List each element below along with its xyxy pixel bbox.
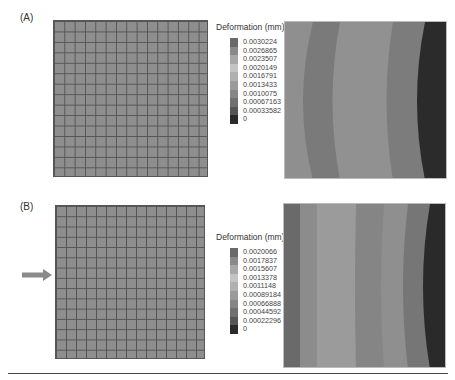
panel-label-b: (B)	[20, 201, 33, 212]
legend-swatch	[230, 64, 238, 73]
legend-swatch	[230, 38, 238, 47]
legend-b: Deformation (mm) 0.00200660.00178370.001…	[216, 232, 284, 334]
legend-value: 0.00022296	[243, 317, 281, 326]
contour-plot-b	[284, 204, 446, 368]
arrow-right-icon	[22, 267, 52, 285]
legend-swatch	[230, 72, 238, 81]
deformation-contour-b	[283, 203, 446, 368]
legend-row: 0	[230, 325, 284, 334]
legend-swatch	[230, 300, 238, 309]
mesh-grid-b	[55, 205, 205, 359]
legend-a: Deformation (mm) 0.00302240.00268650.002…	[216, 22, 284, 124]
contour-plot-a	[285, 22, 447, 179]
deformation-contour-a	[284, 21, 447, 179]
legend-swatch	[230, 107, 238, 116]
legend-swatch	[230, 325, 238, 334]
legend-swatch	[230, 265, 238, 274]
legend-swatch	[230, 90, 238, 99]
legend-scale-b: 0.00200660.00178370.00156070.00133780.00…	[230, 248, 284, 334]
legend-swatch	[230, 81, 238, 90]
legend-value: 0	[243, 325, 247, 334]
legend-swatch	[230, 274, 238, 283]
legend-scale-a: 0.00302240.00268650.00235070.00201490.00…	[230, 38, 284, 124]
legend-row: 0.00033582	[230, 107, 284, 116]
legend-swatch	[230, 47, 238, 56]
legend-row: 0	[230, 115, 284, 124]
legend-swatch	[230, 291, 238, 300]
panel-label-a: (A)	[20, 12, 33, 23]
legend-swatch	[230, 115, 238, 124]
legend-swatch	[230, 98, 238, 107]
legend-swatch	[230, 308, 238, 317]
mesh-grid-a	[53, 20, 208, 177]
legend-swatch	[230, 248, 238, 257]
legend-swatch	[230, 282, 238, 291]
legend-swatch	[230, 55, 238, 64]
legend-value: 0.00033582	[243, 107, 281, 116]
legend-row: 0.00022296	[230, 317, 284, 326]
legend-title-a: Deformation (mm)	[216, 22, 284, 32]
legend-title-b: Deformation (mm)	[216, 232, 284, 242]
legend-swatch	[230, 257, 238, 266]
legend-swatch	[230, 317, 238, 326]
bottom-rule	[8, 373, 448, 374]
legend-value: 0	[243, 115, 247, 124]
